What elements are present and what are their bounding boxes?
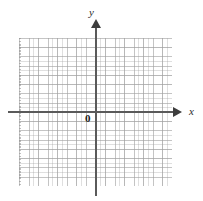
- y-axis-arrow-icon: [91, 19, 101, 28]
- origin-label: 0: [85, 113, 91, 124]
- y-axis-label: y: [89, 7, 94, 18]
- y-axis-line: [95, 27, 97, 196]
- x-axis-arrow-icon: [173, 107, 182, 117]
- coordinate-plane-figure: y x 0: [0, 0, 203, 201]
- x-axis-line: [8, 111, 175, 113]
- x-axis-label: x: [189, 106, 194, 117]
